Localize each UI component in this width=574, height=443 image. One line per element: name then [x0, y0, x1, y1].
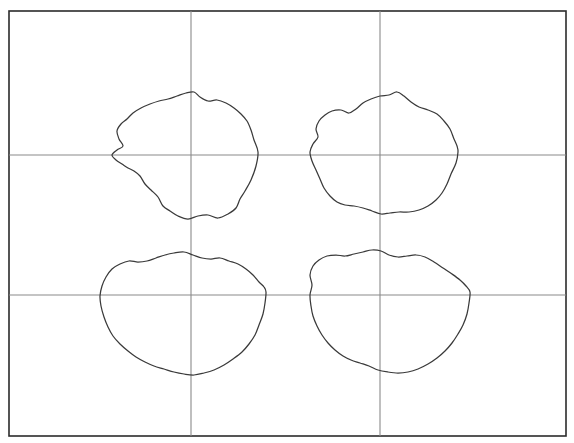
contour-bottom-left [100, 252, 266, 375]
contour-bottom-right [310, 250, 470, 373]
contour-paths-group [100, 92, 470, 375]
figure-container [0, 0, 574, 443]
contour-figure-canvas [0, 0, 574, 443]
frame-group [9, 11, 566, 436]
contour-top-right [310, 92, 458, 214]
figure-frame-border [9, 11, 566, 436]
grid-lines-group [9, 11, 566, 436]
